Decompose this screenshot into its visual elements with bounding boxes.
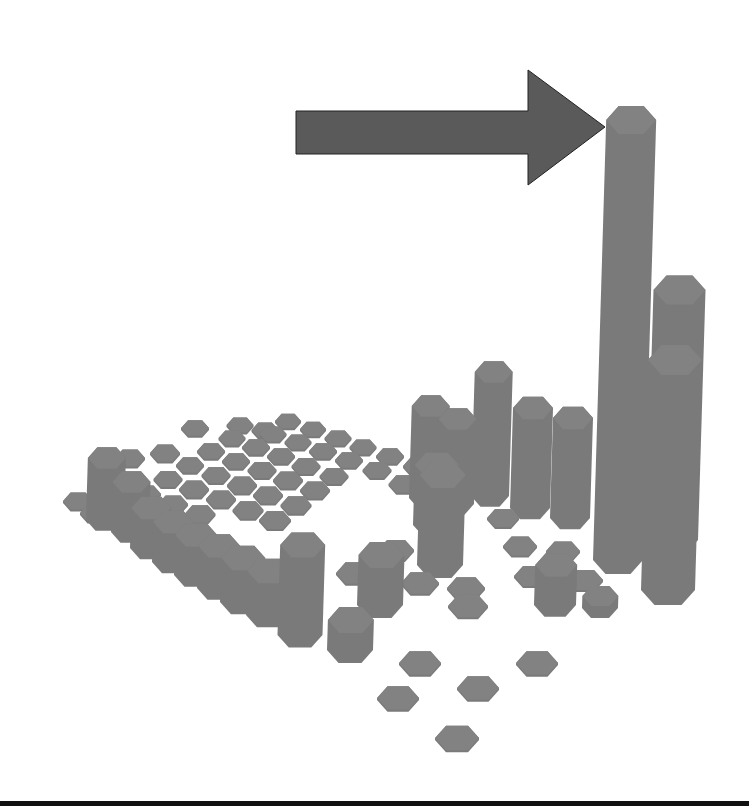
hex-column	[457, 676, 499, 702]
hex-column	[357, 542, 405, 618]
arrow-icon	[296, 70, 605, 185]
hex-column	[550, 407, 593, 529]
hex-column	[377, 686, 419, 712]
annotation-arrow	[296, 70, 605, 185]
hex-column	[259, 511, 291, 531]
hex-column	[417, 462, 466, 578]
hex-column	[222, 453, 250, 471]
hex-column	[582, 586, 618, 618]
hex-column	[503, 536, 537, 557]
hex-column	[399, 651, 441, 677]
hex-column	[179, 481, 209, 500]
hex-column	[150, 445, 180, 464]
hex-column	[248, 462, 277, 480]
hex-column	[641, 345, 702, 605]
hex-column	[206, 491, 236, 510]
hex-column	[510, 397, 553, 519]
hex-column	[471, 361, 513, 506]
bar3d-chart	[0, 0, 749, 812]
hex-column	[154, 471, 183, 489]
hex-column	[435, 726, 479, 753]
hex-column	[197, 443, 225, 461]
hex-column	[176, 457, 204, 475]
hex-column	[534, 553, 577, 617]
hex-column	[516, 651, 558, 677]
hex-column	[181, 420, 209, 438]
bottom-rule	[0, 801, 749, 806]
hex-column	[278, 532, 326, 647]
hex-column	[233, 501, 264, 520]
hex-column	[202, 467, 231, 485]
hex-column	[327, 607, 374, 663]
hex-column	[253, 487, 283, 506]
hex-columns	[63, 106, 706, 752]
hex-column	[227, 477, 257, 496]
hex-column	[448, 595, 488, 619]
